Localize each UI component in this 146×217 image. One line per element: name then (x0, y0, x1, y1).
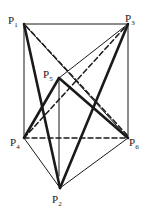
label-p2: P2 (52, 194, 62, 208)
edge-p4-p5 (24, 78, 59, 138)
label-p4-sub: 4 (16, 143, 20, 151)
label-p6: P6 (129, 137, 139, 151)
edge-p5-p6 (59, 78, 128, 138)
prism-diagram (0, 0, 146, 217)
label-p4: P4 (10, 137, 20, 151)
label-p2-sub: 2 (58, 200, 62, 208)
label-p3: P3 (125, 13, 135, 27)
label-p5: P5 (43, 69, 53, 83)
label-p3-sub: 3 (131, 19, 135, 27)
label-p5-sub: 5 (49, 75, 53, 83)
label-p1: P1 (8, 15, 18, 29)
label-p6-sub: 6 (135, 143, 139, 151)
label-p1-sub: 1 (14, 21, 18, 29)
